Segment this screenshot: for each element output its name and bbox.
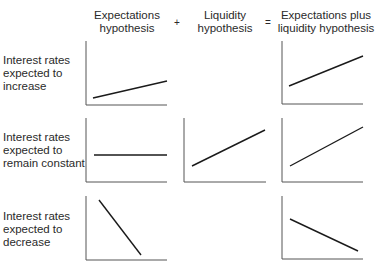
yield-curve-line — [192, 130, 265, 166]
yield-curve-line — [99, 200, 141, 255]
panel-increase-expectations — [86, 41, 167, 105]
yield-curve-line — [93, 81, 167, 98]
panel-decrease-combined — [282, 196, 363, 259]
panel-decrease-expectations — [86, 196, 167, 260]
panel-constant-combined — [282, 118, 363, 182]
yield-curve-line — [290, 127, 363, 166]
yield-curve-line — [289, 56, 363, 86]
yield-curve-line — [290, 219, 358, 251]
panel-increase-combined — [282, 41, 363, 104]
panel-constant-expectations — [86, 118, 167, 182]
panel-constant-liquidity — [184, 118, 266, 182]
